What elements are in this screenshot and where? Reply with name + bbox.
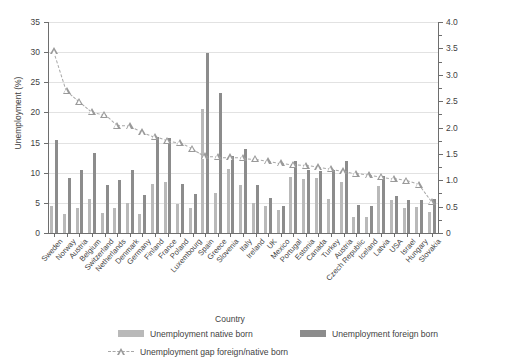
bar-native-born <box>277 210 280 233</box>
y-axis-left-tick-label: 15 <box>16 138 40 148</box>
bar-native-born <box>327 199 330 233</box>
y-axis-right-minor-tick <box>439 220 442 221</box>
y-axis-right-tick-label: 2.5 <box>446 96 472 106</box>
x-axis-tick <box>218 234 219 237</box>
y-axis-right-tick <box>439 207 443 208</box>
plot-area <box>48 22 438 233</box>
y-axis-left-tick-label: 30 <box>16 47 40 57</box>
bar-foreign-born <box>143 195 146 233</box>
bar-foreign-born <box>156 137 159 233</box>
y-axis-left-tick <box>44 82 48 83</box>
bar-foreign-born <box>282 206 285 233</box>
x-axis-tick <box>193 234 194 237</box>
bar-foreign-born <box>420 200 423 233</box>
bar-foreign-born <box>206 53 209 233</box>
x-axis-tick <box>54 234 55 237</box>
bar-foreign-born <box>244 149 247 233</box>
y-axis-right-minor-tick <box>439 141 442 142</box>
bar-native-born <box>201 109 204 233</box>
y-axis-left-tick <box>44 52 48 53</box>
legend-marker-gap-triangle-icon <box>108 347 134 356</box>
bar-native-born <box>365 217 368 233</box>
y-axis-right-tick <box>439 75 443 76</box>
y-axis-right-minor-tick <box>439 35 442 36</box>
x-axis-tick <box>293 234 294 237</box>
y-axis-right-tick <box>439 128 443 129</box>
bar-native-born <box>403 208 406 233</box>
x-axis-tick <box>407 234 408 237</box>
legend-item-foreign: Unemployment foreign born <box>300 328 438 339</box>
y-axis-left-tick <box>44 233 48 234</box>
x-axis-tick <box>79 234 80 237</box>
bar-foreign-born <box>93 153 96 233</box>
bar-native-born <box>214 193 217 233</box>
bar-native-born <box>101 213 104 233</box>
y-axis-left-tick-label: 25 <box>16 77 40 87</box>
y-axis-right-minor-tick <box>439 62 442 63</box>
bar-native-born <box>390 200 393 233</box>
bar-foreign-born <box>194 194 197 233</box>
x-axis-tick <box>432 234 433 237</box>
y-axis-right-tick <box>439 180 443 181</box>
bar-native-born <box>315 178 318 233</box>
bar-foreign-born <box>181 184 184 233</box>
bar-foreign-born <box>68 178 71 233</box>
x-axis-tick <box>142 234 143 237</box>
y-axis-right-minor-tick <box>439 193 442 194</box>
y-axis-right-tick-label: 1.5 <box>446 149 472 159</box>
y-axis-left-spine <box>48 22 49 234</box>
chart-legend: Unemployment native born Unemployment fo… <box>0 324 530 362</box>
bar-native-born <box>302 179 305 233</box>
bar-native-born <box>189 208 192 233</box>
bar-foreign-born <box>307 170 310 233</box>
bar-foreign-born <box>168 138 171 233</box>
chart-figure: Unemployment (%) Unemployment gap native… <box>0 0 530 362</box>
x-axis-tick <box>344 234 345 237</box>
bar-native-born <box>50 206 53 233</box>
bar-native-born <box>176 204 179 233</box>
bar-foreign-born <box>294 161 297 233</box>
x-axis-tick <box>243 234 244 237</box>
x-axis-tick <box>394 234 395 237</box>
bar-native-born <box>63 214 66 233</box>
bar-native-born <box>88 199 91 233</box>
bar-native-born <box>264 206 267 233</box>
x-axis-tick <box>318 234 319 237</box>
bar-native-born <box>428 212 431 233</box>
x-axis-tick <box>130 234 131 237</box>
bar-native-born <box>138 214 141 233</box>
x-axis-tick <box>306 234 307 237</box>
y-axis-left-tick <box>44 22 48 23</box>
y-axis-right-tick-label: 4.0 <box>446 17 472 27</box>
bar-foreign-born <box>395 196 398 233</box>
x-axis-tick <box>331 234 332 237</box>
bar-foreign-born <box>231 156 234 233</box>
y-axis-left-tick-label: 35 <box>16 17 40 27</box>
legend-item-native: Unemployment native born <box>118 328 253 339</box>
x-axis-tick <box>419 234 420 237</box>
x-axis-tick <box>356 234 357 237</box>
y-axis-right-tick <box>439 101 443 102</box>
y-axis-left-tick-label: 20 <box>16 107 40 117</box>
y-axis-right-tick-label: 0 <box>446 228 472 238</box>
x-axis-tick <box>381 234 382 237</box>
x-axis-tick <box>117 234 118 237</box>
x-axis-tick <box>67 234 68 237</box>
y-axis-right-tick-label: 0.5 <box>446 202 472 212</box>
y-axis-right-tick <box>439 22 443 23</box>
y-axis-right-minor-tick <box>439 167 442 168</box>
bar-foreign-born <box>118 180 121 233</box>
bar-foreign-born <box>219 93 222 233</box>
y-axis-right-tick-label: 2.0 <box>446 123 472 133</box>
legend-label-foreign: Unemployment foreign born <box>332 329 438 339</box>
bar-foreign-born <box>256 185 259 233</box>
x-axis-tick <box>205 234 206 237</box>
bar-foreign-born <box>55 140 58 233</box>
x-axis-tick <box>369 234 370 237</box>
y-axis-left-tick-label: 5 <box>16 198 40 208</box>
bar-native-born <box>252 203 255 233</box>
bar-foreign-born <box>319 171 322 233</box>
y-axis-left-tick <box>44 203 48 204</box>
bar-native-born <box>113 208 116 233</box>
bar-native-born <box>415 207 418 233</box>
